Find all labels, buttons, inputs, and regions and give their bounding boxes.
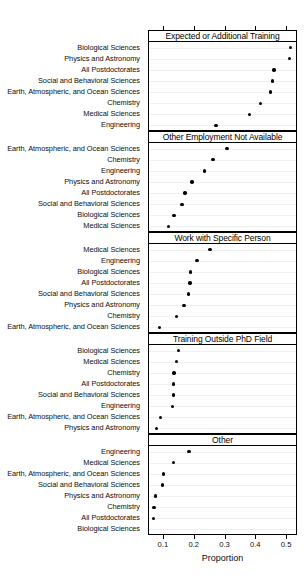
data-point: [187, 450, 190, 453]
dot-plot-figure: Expected or Additional TrainingBiologica…: [0, 0, 304, 578]
y-axis-tick-label: Engineering: [101, 402, 140, 410]
y-axis-tick-label: Social and Behavioral Sciences: [38, 200, 140, 208]
y-axis-tick-label: Chemistry: [107, 369, 140, 377]
gridline: [149, 428, 296, 429]
gridline: [149, 92, 296, 93]
panel-strip-4: Training Outside PhD Field: [148, 333, 297, 345]
y-axis-tick-label: Earth, Atmospheric, and Ocean Sciences: [7, 145, 140, 153]
data-point: [159, 416, 162, 419]
gridline: [149, 114, 296, 115]
data-point: [272, 68, 275, 71]
data-point: [269, 90, 272, 93]
gridline: [149, 272, 296, 273]
data-point: [180, 203, 183, 206]
gridline: [149, 485, 296, 486]
gridline: [149, 316, 296, 317]
gridline: [149, 496, 296, 497]
data-point: [172, 382, 175, 385]
panel-title: Other: [212, 436, 233, 445]
x-tick-mark: [286, 535, 287, 539]
panel-strip-5: Other: [148, 434, 297, 446]
data-point: [195, 259, 198, 262]
gridline: [149, 182, 296, 183]
panel-title: Work with Specific Person: [174, 234, 270, 243]
data-point: [189, 270, 192, 273]
panel-title: Expected or Additional Training: [165, 32, 279, 41]
data-point: [183, 191, 186, 194]
chart-panel: Other Employment Not Available: [148, 131, 297, 232]
data-point: [161, 483, 164, 486]
gridline: [149, 171, 296, 172]
y-axis-tick-label: Physics and Astronomy: [64, 55, 140, 63]
gridline: [149, 48, 296, 49]
data-point: [172, 371, 175, 374]
data-point: [208, 248, 211, 251]
x-axis-tick-label: 0.2: [188, 540, 199, 549]
y-axis-tick-label: Social and Behavioral Sciences: [38, 391, 140, 399]
gridline: [149, 518, 296, 519]
gridline: [149, 261, 296, 262]
gridline: [149, 351, 296, 352]
chart-panel: Other: [148, 434, 297, 535]
data-point: [214, 124, 217, 127]
y-axis-labels: Biological SciencesMedical SciencesChemi…: [0, 345, 143, 434]
y-axis-tick-label: Medical Sciences: [83, 358, 140, 366]
y-axis-tick-label: Earth, Atmospheric, and Ocean Sciences: [7, 88, 140, 96]
data-point: [162, 472, 165, 475]
y-axis-tick-label: Biological Sciences: [77, 44, 140, 52]
data-point: [152, 517, 155, 520]
panel-strip-2: Other Employment Not Available: [148, 131, 297, 143]
gridline: [149, 474, 296, 475]
data-point: [271, 79, 274, 82]
y-axis-tick-label: Engineering: [101, 448, 140, 456]
chart-panel: Training Outside PhD Field: [148, 333, 297, 434]
gridline: [149, 250, 296, 251]
data-point: [158, 326, 161, 329]
data-point: [288, 57, 291, 60]
data-point: [177, 349, 180, 352]
y-axis-tick-label: Chemistry: [107, 503, 140, 511]
panel-title: Other Employment Not Available: [163, 133, 283, 142]
data-point: [187, 292, 190, 295]
gridline: [149, 507, 296, 508]
gridline: [149, 160, 296, 161]
y-axis-tick-label: All Postdoctorates: [81, 380, 140, 388]
y-axis-tick-label: Social and Behavioral Sciences: [38, 77, 140, 85]
chart-panel: Work with Specific Person: [148, 232, 297, 333]
y-axis-tick-label: All Postdoctorates: [81, 66, 140, 74]
y-axis-tick-label: Chemistry: [107, 99, 140, 107]
data-point: [172, 214, 175, 217]
y-axis-tick-label: Medical Sciences: [83, 110, 140, 118]
data-point: [182, 304, 185, 307]
gridline: [149, 362, 296, 363]
gridline: [149, 193, 296, 194]
y-axis-tick-label: All Postdoctorates: [81, 279, 140, 287]
y-axis-tick-label: Social and Behavioral Sciences: [38, 290, 140, 298]
data-point: [190, 180, 193, 183]
y-axis-tick-label: Biological Sciences: [77, 268, 140, 276]
data-point: [203, 169, 206, 172]
gridline: [149, 373, 296, 374]
gridline: [149, 149, 296, 150]
data-point: [248, 113, 251, 116]
x-tick-mark: [255, 535, 256, 539]
y-axis-tick-label: Social and Behavioral Sciences: [38, 481, 140, 489]
plot-area: [148, 143, 297, 232]
gridline: [149, 452, 296, 453]
plot-area: [148, 42, 297, 131]
y-axis-tick-label: Engineering: [101, 167, 140, 175]
data-point: [175, 315, 178, 318]
gridline: [149, 125, 296, 126]
data-point: [152, 506, 155, 509]
x-tick-mark: [163, 535, 164, 539]
data-point: [211, 158, 214, 161]
y-axis-tick-label: Biological Sciences: [77, 347, 140, 355]
y-axis-tick-label: Earth, Atmospheric, and Ocean Sciences: [7, 413, 140, 421]
y-axis-tick-label: Physics and Astronomy: [64, 492, 140, 500]
data-point: [188, 281, 191, 284]
y-axis-tick-label: Engineering: [101, 121, 140, 129]
y-axis-tick-label: All Postdoctorates: [81, 189, 140, 197]
x-axis-ticks-bottom: [148, 535, 297, 539]
panel-strip-1: Expected or Additional Training: [148, 30, 297, 42]
x-tick-mark: [225, 535, 226, 539]
